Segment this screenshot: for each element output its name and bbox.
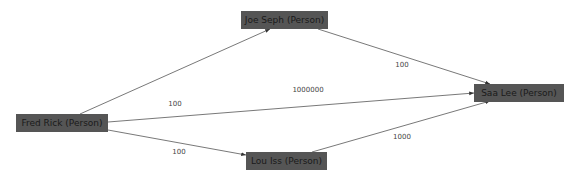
edge-label-fred-joe: 100 xyxy=(168,100,181,108)
node-lou-iss[interactable]: Lou Iss (Person) xyxy=(246,152,327,170)
node-joe-seph[interactable]: Joe Seph (Person) xyxy=(241,11,328,29)
node-saa-lee[interactable]: Saa Lee (Person) xyxy=(474,84,564,102)
edge-joe-saa[interactable] xyxy=(318,29,490,84)
edge-label-fred-lou: 100 xyxy=(172,148,185,156)
node-fred-rick[interactable]: Fred Rick (Person) xyxy=(16,114,108,132)
graph-canvas: 100 1000000 100 100 1000 Fred Rick (Pers… xyxy=(0,0,579,179)
edge-label-joe-saa: 100 xyxy=(395,61,408,69)
edge-lou-saa[interactable] xyxy=(312,101,490,152)
edge-label-lou-saa: 1000 xyxy=(393,133,411,141)
edge-fred-saa[interactable] xyxy=(108,93,474,122)
edge-label-fred-saa: 1000000 xyxy=(292,86,323,94)
